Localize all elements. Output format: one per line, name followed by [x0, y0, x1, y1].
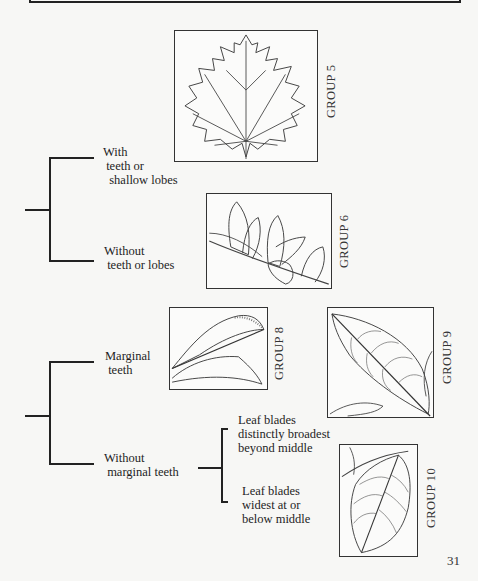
- key-branch-b-vertical: [49, 361, 51, 464]
- toothed-leaves-icon: [170, 308, 267, 389]
- key-branch-a-stem: [25, 209, 50, 211]
- obovate-leaf-icon: [328, 308, 433, 417]
- group-8-illustration: [169, 307, 268, 390]
- group-5-label: GROUP 5: [324, 65, 339, 118]
- option-widest-at-or-below-middle: Leaf blades widest at or below middle: [242, 484, 310, 526]
- group-6-illustration: [206, 193, 332, 289]
- group-5-illustration: [174, 30, 318, 162]
- key-sub-branch-top: [221, 428, 228, 430]
- key-sub-branch-stem: [198, 467, 222, 469]
- key-branch-b-bottom: [49, 463, 94, 465]
- key-branch-a-bottom: [49, 260, 94, 262]
- group-10-illustration: [339, 444, 418, 557]
- key-branch-a-vertical: [49, 157, 51, 261]
- twig-leaves-icon: [207, 194, 331, 288]
- key-sub-branch-bottom: [221, 501, 228, 503]
- option-without-marginal-teeth: Without marginal teeth: [104, 451, 179, 479]
- page-number: 31: [447, 553, 460, 569]
- option-marginal-teeth: Marginal teeth: [105, 349, 151, 377]
- key-branch-a-top: [49, 157, 94, 159]
- group-6-label: GROUP 6: [337, 215, 352, 268]
- group-9-illustration: [327, 307, 434, 418]
- option-broadest-beyond-middle: Leaf blades distinctly broadest beyond m…: [238, 413, 330, 455]
- lobed-leaf-icon: [175, 31, 317, 161]
- group-10-label: GROUP 10: [424, 468, 439, 528]
- option-with-teeth-or-lobes: With teeth or shallow lobes: [103, 145, 178, 187]
- key-sub-branch-vertical: [221, 428, 223, 502]
- group-9-label: GROUP 9: [440, 331, 455, 384]
- ovate-leaf-icon: [340, 445, 417, 556]
- header-box-edge: [29, 0, 461, 3]
- group-8-label: GROUP 8: [272, 327, 287, 380]
- option-without-teeth-or-lobes: Without teeth or lobes: [104, 244, 174, 272]
- key-branch-b-top: [49, 361, 94, 363]
- key-branch-b-stem: [25, 415, 50, 417]
